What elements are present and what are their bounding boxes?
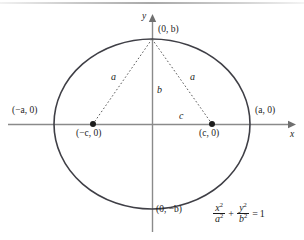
focus-left-label: (−c, 0) [76, 129, 101, 139]
equation-plus-sign: + [228, 209, 234, 219]
y-axis-label: y [142, 12, 146, 22]
segment-label-b: b [157, 85, 162, 95]
segment-label-c: c [179, 111, 183, 121]
ellipse-equation: x2 a2 + y2 b2 = 1 [212, 203, 265, 224]
ellipse-figure: x y (0, b) (0, −b) (a, 0) (−a, 0) (−c, 0… [0, 0, 304, 240]
segment-label-a-right: a [190, 72, 195, 82]
x-axis-label: x [290, 130, 294, 140]
equation-x-denominator: a2 [213, 214, 225, 224]
vertex-right-label: (a, 0) [255, 106, 275, 116]
focus-right-point [209, 121, 215, 127]
equation-x-fraction: x2 a2 [213, 203, 225, 224]
equation-y-denominator: b2 [237, 214, 249, 224]
vertex-left-label: (−a, 0) [12, 106, 37, 116]
segment-label-a-left: a [111, 72, 116, 82]
vertex-top-label: (0, b) [158, 25, 179, 35]
y-axis-arrowhead [149, 14, 156, 22]
x-axis-arrowhead [288, 121, 296, 128]
focus-left-point [90, 121, 96, 127]
vertex-bottom-label: (0, −b) [156, 205, 182, 215]
equation-y-fraction: y2 b2 [237, 203, 249, 224]
focus-right-label: (c, 0) [199, 129, 219, 139]
equation-right-hand-side: 1 [260, 209, 265, 219]
equation-equals-sign: = [252, 209, 258, 219]
